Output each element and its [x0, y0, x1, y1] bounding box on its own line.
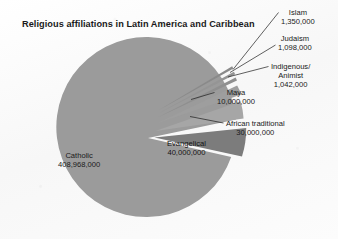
slice-label-maya: Maya 10,000,000: [217, 89, 255, 107]
slice-label-catholic: Catholic 408,968,000: [58, 152, 100, 170]
slice-label-evangelical-value: 40,000,000: [167, 149, 206, 158]
slice-label-african-traditional-value: 30,000,000: [226, 129, 285, 138]
slice-label-evangelical: Evangelical 40,000,000: [167, 140, 206, 158]
pie-slice-catholic[interactable]: [56, 37, 236, 217]
slice-label-judaism: Judaism 1,098,000: [278, 35, 312, 53]
slice-label-judaism-value: 1,098,000: [278, 44, 312, 53]
slice-label-maya-value: 10,000,000: [217, 98, 255, 107]
slice-label-indigenous-animist: Indigenous/ Animist 1,042,000: [271, 63, 310, 89]
slice-label-indigenous-animist-value: 1,042,000: [271, 81, 310, 90]
slice-label-islam: Islam 1,350,000: [281, 9, 315, 27]
leader-line-judaism: [230, 45, 276, 73]
slice-label-african-traditional: African traditional 30,000,000: [226, 120, 285, 138]
slice-label-catholic-value: 408,968,000: [58, 161, 100, 170]
leader-line-islam: [233, 13, 279, 70]
slice-label-islam-value: 1,350,000: [281, 18, 315, 27]
pie-chart-figure: Religious affiliations in Latin America …: [0, 0, 338, 239]
